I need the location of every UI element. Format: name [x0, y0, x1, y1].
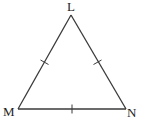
triangle-diagram: L M N [0, 0, 144, 127]
vertex-label-l: L [67, 0, 75, 14]
congruence-tick-marks [41, 60, 102, 114]
triangle-lmn [18, 15, 126, 109]
tick-mark-lm [41, 60, 49, 65]
vertex-label-m: M [3, 104, 15, 119]
vertex-label-n: N [127, 105, 137, 120]
